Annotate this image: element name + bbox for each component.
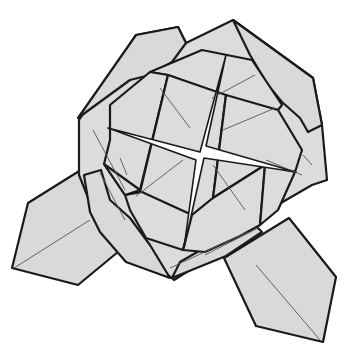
origami-ball-diagram <box>0 0 345 363</box>
